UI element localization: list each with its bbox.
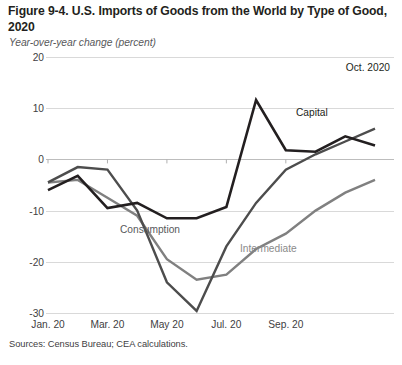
annotation-oct-2020: Oct. 2020: [346, 62, 390, 73]
sources-note: Sources: Census Bureau; CEA calculations…: [9, 339, 188, 349]
plot-area: 20100-10-20-30 Jan. 20Mar. 20May 20Jul. …: [0, 0, 402, 365]
series-label-intermediate: Intermediate: [240, 243, 297, 254]
series-label-consumption: Consumption: [120, 224, 180, 235]
series-label-capital: Capital: [296, 107, 328, 118]
data-lines: [0, 0, 402, 365]
series-line-capital: [48, 129, 375, 311]
figure-container: Figure 9-4. U.S. Imports of Goods from t…: [0, 0, 402, 365]
